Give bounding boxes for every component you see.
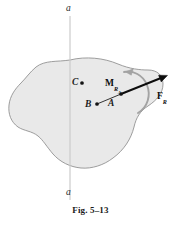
moment-vector-label: MRA [105,79,121,90]
figure-caption: Fig. 5–13 [0,205,181,215]
figure-graphics [0,0,181,228]
point-dot-c [80,81,84,85]
force-vector-label: FR [157,92,167,102]
point-label-b: B [85,100,91,110]
figure-container: a a C B A MRA FR Fig. 5–13 [0,0,181,228]
axis-label-top: a [66,4,71,14]
moment-label-subsub: A [118,90,121,95]
point-dot-b [95,102,99,106]
point-label-c: C [72,78,78,88]
moment-label-main: M [105,78,114,88]
point-label-a: A [108,99,114,109]
force-label-sub: R [163,99,167,105]
axis-label-bottom: a [66,188,71,198]
